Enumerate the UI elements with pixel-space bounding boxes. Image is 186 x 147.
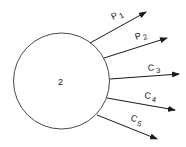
arrow-label-c5: C5 — [128, 113, 144, 129]
arrow-label-p2: P2 — [134, 29, 149, 44]
arrow-label-c3: C3 — [147, 62, 160, 75]
diagram-canvas: 2 P1P2C3C4C5 — [0, 0, 186, 147]
arrow-label-p1: P1 — [109, 8, 125, 24]
arrow-c3 — [110, 74, 179, 79]
arrow-c5 — [97, 115, 157, 139]
arrow-label-c4: C4 — [143, 90, 157, 104]
node-label: 2 — [58, 77, 63, 87]
arrow-c4 — [107, 98, 175, 110]
